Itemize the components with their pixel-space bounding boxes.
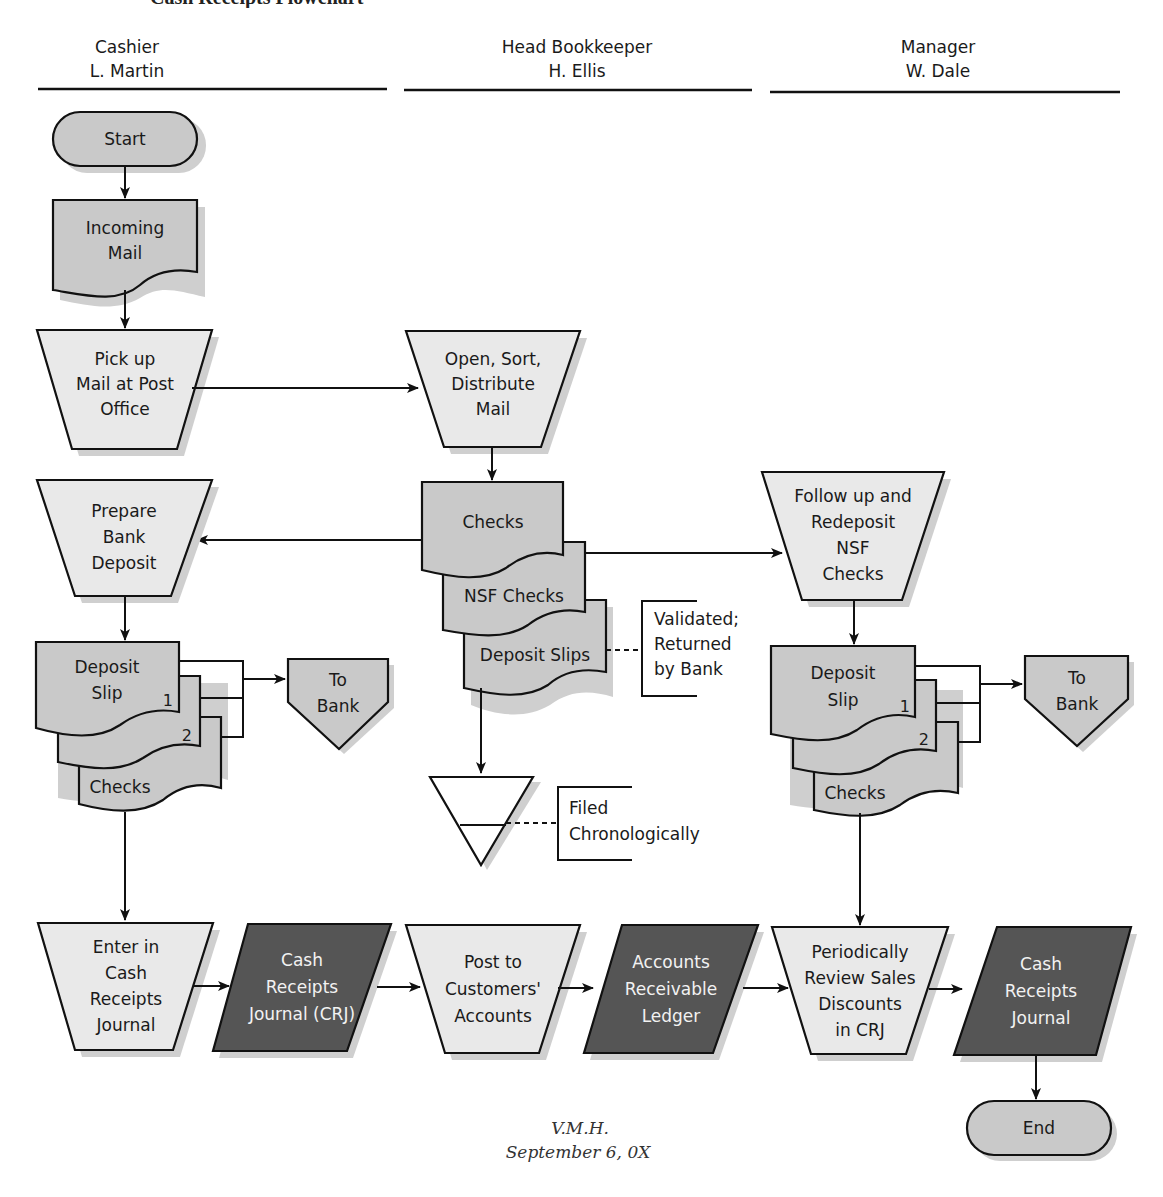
document-label: Checks (89, 777, 150, 797)
annotation-text: FiledChronologically (569, 798, 700, 844)
document-label: NSF Checks (464, 586, 564, 606)
lane-role: Cashier (95, 37, 159, 57)
document-label: Deposit Slips (480, 645, 590, 665)
document-label: Checks (462, 512, 523, 532)
lane-person: W. Dale (906, 61, 970, 81)
lane-head-bookkeeper: Head Bookkeeper H. Ellis (404, 37, 752, 90)
validated-annotation: Validated;Returnedby Bank (642, 601, 739, 696)
manager-deposit-stack: Checks 2 DepositSlip 1 (771, 646, 963, 816)
open-sort-distribute-operation: Open, Sort,DistributeMail (406, 331, 587, 454)
pick-up-mail-operation: Pick upMail at PostOffice (37, 330, 219, 456)
start-label: Start (104, 129, 146, 149)
signature-date: September 6, 0X (506, 1142, 652, 1162)
lane-role: Head Bookkeeper (502, 37, 653, 57)
enter-crj-operation: Enter inCashReceiptsJournal (38, 923, 220, 1057)
crj-ledger: CashReceiptsJournal (CRJ) (213, 924, 397, 1058)
lane-role: Manager (901, 37, 976, 57)
document-label: Checks (824, 783, 885, 803)
lane-person: H. Ellis (548, 61, 605, 81)
copy-number: 1 (900, 697, 910, 716)
copy-number: 2 (919, 730, 929, 749)
ar-ledger: AccountsReceivableLedger (584, 925, 764, 1060)
end-label: End (1023, 1118, 1055, 1138)
lane-person: L. Martin (90, 61, 165, 81)
crj-manager-ledger: CashReceiptsJournal (954, 927, 1137, 1062)
incoming-mail-document: IncomingMail (53, 200, 205, 307)
signature: V.M.H. September 6, 0X (506, 1118, 652, 1162)
prepare-bank-deposit-operation: PrepareBankDeposit (37, 480, 219, 603)
post-accounts-operation: Post toCustomers'Accounts (406, 925, 587, 1060)
lane-manager: Manager W. Dale (770, 37, 1120, 92)
flowchart-canvas: Cashier L. Martin Head Bookkeeper H. Ell… (0, 0, 1163, 1197)
start-terminator: Start (53, 112, 206, 173)
manager-to-bank-connector: ToBank (1025, 656, 1134, 752)
lane-cashier: Cashier L. Martin (38, 37, 387, 89)
copy-number: 1 (163, 691, 173, 710)
review-discounts-operation: PeriodicallyReview SalesDiscountsin CRJ (772, 927, 955, 1061)
annotation-text: Validated;Returnedby Bank (654, 609, 739, 679)
copy-number: 2 (182, 726, 192, 745)
cashier-deposit-stack: Checks 2 DepositSlip 1 (36, 642, 228, 811)
cashier-to-bank-connector: ToBank (288, 659, 394, 754)
checks-document-stack: Deposit Slips NSF Checks Checks (422, 482, 613, 714)
signature-initials: V.M.H. (551, 1118, 609, 1138)
follow-up-redeposit-operation: Follow up andRedepositNSFChecks (762, 472, 951, 607)
end-terminator: End (967, 1101, 1117, 1161)
filed-annotation: FiledChronologically (558, 787, 700, 860)
